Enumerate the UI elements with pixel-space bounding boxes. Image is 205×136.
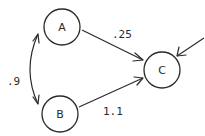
edge-b-c-line xyxy=(79,78,143,107)
edge-external-c-line xyxy=(177,38,204,56)
edge-b-c xyxy=(79,77,143,107)
node-b: B xyxy=(42,96,78,132)
node-c: C xyxy=(144,52,180,88)
node-c-label: C xyxy=(158,64,166,77)
edge-a-c-label: .25 xyxy=(112,28,132,41)
node-a: A xyxy=(44,9,80,45)
edge-external-c xyxy=(177,38,204,56)
edge-a-b-curve xyxy=(30,34,38,104)
node-a-label: A xyxy=(58,21,66,34)
path-diagram: .9 .25 1.1 A B C xyxy=(0,0,205,136)
node-b-label: B xyxy=(56,108,64,121)
edge-b-c-label: 1.1 xyxy=(103,105,123,118)
edge-a-b xyxy=(30,34,39,104)
edge-a-b-label: .9 xyxy=(7,75,20,88)
